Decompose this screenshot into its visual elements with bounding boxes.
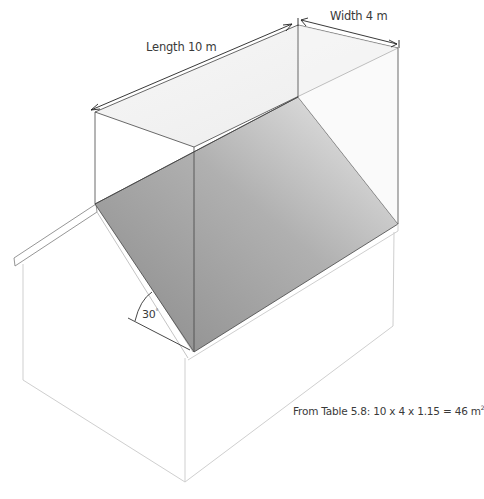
angle-label: 30° (142, 307, 158, 321)
length-label: Length 10 m (146, 40, 217, 54)
formula-text: From Table 5.8: 10 x 4 x 1.15 = 46 m2 (293, 404, 484, 417)
angle-value: 30 (142, 308, 156, 321)
angle-unit: ° (156, 307, 159, 314)
left-eave (14, 204, 97, 266)
width-label: Width 4 m (330, 9, 387, 23)
formula-main: From Table 5.8: 10 x 4 x 1.15 = 46 m (293, 405, 481, 417)
